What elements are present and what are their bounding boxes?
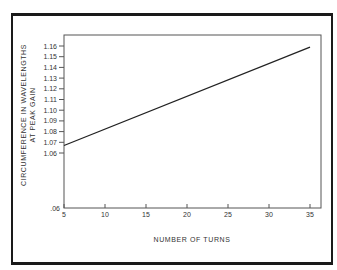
y-tick-label: 1.15 [43,53,57,60]
y-axis: 1.161.151.141.131.121.111.101.091.081.07… [43,43,64,157]
y-tick-label: 1.16 [43,43,57,50]
data-line [64,47,310,145]
y-tick-label: 1.10 [43,107,57,114]
x-tick-label: 5 [62,211,66,218]
x-tick-label: 25 [224,211,232,218]
y-tick-label: 1.07 [43,139,57,146]
x-tick-label: 15 [142,211,150,218]
y-axis-title-line1: CIRCUMFERENCE IN WAVELENGTHS [20,44,27,186]
x-tick-label: 20 [183,211,191,218]
y-axis-title-line2: AT PEAK GAIN [29,87,36,142]
y-tick-label: 1.14 [43,64,57,71]
x-axis-title: NUMBER OF TURNS [154,236,231,243]
y-tick-label: 1.11 [44,96,57,103]
y-axis-bottom-label: .06 [50,205,60,212]
x-tick-label: 30 [265,211,273,218]
y-tick-label: 1.09 [43,117,57,124]
y-tick-label: 1.06 [43,150,57,157]
x-axis: 5101520253035 [62,204,314,218]
y-tick-label: 1.08 [43,128,57,135]
plot-area-frame [64,35,321,208]
y-tick-label: 1.12 [43,85,57,92]
y-tick-label: 1.13 [43,75,57,82]
x-tick-label: 35 [306,211,314,218]
x-tick-label: 10 [101,211,109,218]
chart-svg: 1.161.151.141.131.121.111.101.091.081.07… [0,0,337,270]
